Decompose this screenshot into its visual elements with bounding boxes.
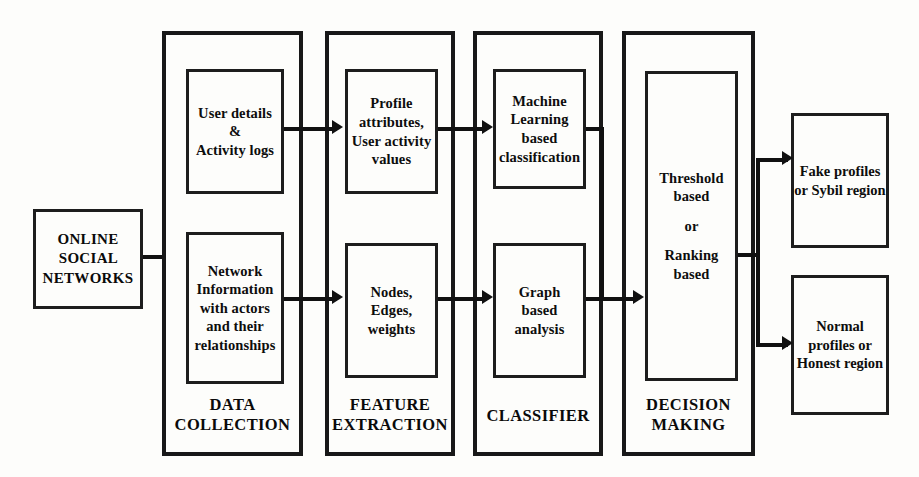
box-line: based <box>650 265 733 284</box>
box-line: Machine <box>498 92 581 111</box>
box-line: Sybil region <box>811 182 885 198</box>
source-box-label: ONLINE SOCIAL NETWORKS <box>36 230 140 289</box>
box-graph-based-analysis: Graph based analysis <box>493 243 586 378</box>
connector-profile-attributes-to-ml-classification <box>438 127 487 131</box>
box-network-information: Network Information with actors and thei… <box>186 232 284 384</box>
stage-label-line: CLASSIFIER <box>473 406 603 426</box>
arrowhead-decision-to-fake-profiles <box>782 151 793 165</box>
connector-decision-split-trunk <box>756 158 760 347</box>
connector-user-details-to-profile-attributes <box>284 127 337 131</box>
output-box-normal-profiles: Normal profiles or Honest region <box>791 275 889 415</box>
output-box-fake-profiles: Fake profiles or Sybil region <box>791 113 889 248</box>
box-line: classification <box>498 148 581 167</box>
box-line: Activity logs <box>191 141 279 160</box>
arrowhead-profile-attributes-to-ml-classification <box>482 120 493 134</box>
arrowhead-decision-to-normal-profiles <box>782 336 793 350</box>
arrowhead-nodes-edges-to-graph-analysis <box>482 290 493 304</box>
source-box-online-social-networks: ONLINE SOCIAL NETWORKS <box>33 209 143 309</box>
box-line: Fake <box>800 163 831 179</box>
box-line: Edges, <box>350 301 433 320</box>
box-line: Nodes, <box>350 283 433 302</box>
box-line: or <box>858 337 871 353</box>
box-line: Threshold <box>650 169 733 188</box>
source-line-1: ONLINE <box>58 231 119 247</box>
stage-label-classifier: CLASSIFIER <box>473 406 603 426</box>
box-line: weights <box>350 320 433 339</box>
stage-label-feature-extraction: FEATURE EXTRACTION <box>325 395 455 435</box>
source-line-2: SOCIAL <box>59 250 118 266</box>
source-line-3: NETWORKS <box>43 270 134 286</box>
box-line: & <box>191 122 279 141</box>
box-user-details-activity-logs: User details & Activity logs <box>186 69 284 194</box>
arrowhead-network-info-to-nodes-edges <box>332 290 343 304</box>
box-line: User activity <box>350 132 433 151</box>
box-line: attributes, <box>350 113 433 132</box>
box-nodes-edges-weights: Nodes, Edges, weights <box>345 243 438 378</box>
box-line: Graph <box>498 283 581 302</box>
box-line: Learning <box>498 110 581 129</box>
connector-nodes-edges-to-graph-analysis <box>438 297 487 301</box>
connector-network-info-to-nodes-edges <box>284 297 337 301</box>
box-line: profiles <box>808 337 854 353</box>
box-line: profiles <box>834 163 880 179</box>
box-line: Normal <box>816 318 864 334</box>
box-line: Network <box>191 262 279 281</box>
box-line: and their <box>191 317 279 336</box>
box-threshold-or-ranking-based: Threshold based or Ranking based <box>645 71 738 381</box>
box-line: based <box>650 187 733 206</box>
box-line: Profile <box>350 94 433 113</box>
arrowhead-user-details-to-profile-attributes <box>332 120 343 134</box>
arrowhead-classifier-to-decision-making <box>633 290 644 304</box>
box-line: region <box>844 355 883 371</box>
stage-label-line: MAKING <box>622 415 755 435</box>
stage-label-line: DATA <box>162 395 303 415</box>
box-line: relationships <box>191 336 279 355</box>
box-line: Ranking <box>650 246 733 265</box>
box-line: Honest <box>797 355 841 371</box>
box-line: values <box>350 150 433 169</box>
box-line-spacer <box>650 235 733 246</box>
connector-classifier-merge-trunk <box>600 127 604 301</box>
box-line: or <box>650 217 733 236</box>
stage-label-line: COLLECTION <box>162 415 303 435</box>
stage-label-line: FEATURE <box>325 395 455 415</box>
box-line: Information <box>191 280 279 299</box>
box-line: analysis <box>498 320 581 339</box>
box-line-spacer <box>650 206 733 217</box>
box-line: with actors <box>191 299 279 318</box>
box-ml-based-classification: Machine Learning based classification <box>493 69 586 189</box>
box-line: User details <box>191 104 279 123</box>
box-profile-attributes: Profile attributes, User activity values <box>345 69 438 194</box>
box-line: based <box>498 129 581 148</box>
flow-diagram-canvas: ONLINE SOCIAL NETWORKS User details & Ac… <box>0 0 919 477</box>
stage-label-data-collection: DATA COLLECTION <box>162 395 303 435</box>
stage-label-decision-making: DECISION MAKING <box>622 395 755 435</box>
stage-label-line: DECISION <box>622 395 755 415</box>
stage-label-line: EXTRACTION <box>325 415 455 435</box>
box-line: based <box>498 301 581 320</box>
box-line: or <box>794 182 807 198</box>
